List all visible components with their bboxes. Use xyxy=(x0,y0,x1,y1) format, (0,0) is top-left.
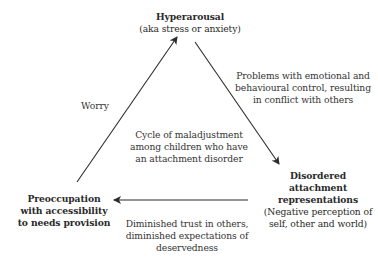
node-disordered-attachment-subtitle: (Negative perception of self, other and … xyxy=(258,206,378,230)
node-preoccupation-title: Preoccupation with accessibility to need… xyxy=(14,193,114,229)
node-hyperarousal-subtitle: (aka stress or anxiety) xyxy=(110,23,270,35)
node-hyperarousal-title: Hyperarousal xyxy=(110,11,270,23)
node-preoccupation: Preoccupation with accessibility to need… xyxy=(14,193,114,229)
node-disordered-attachment-title: Disordered attachment representations xyxy=(258,170,378,206)
edge-label-right-to-left: Diminished trust in others, diminished e… xyxy=(122,218,252,254)
node-disordered-attachment: Disordered attachment representations (N… xyxy=(258,170,378,230)
edge-label-left-to-top: Worry xyxy=(70,100,120,112)
center-label: Cycle of maladjustment among children wh… xyxy=(114,129,264,165)
node-hyperarousal: Hyperarousal (aka stress or anxiety) xyxy=(110,11,270,35)
edge-label-top-to-right: Problems with emotional and behavioural … xyxy=(228,70,378,106)
